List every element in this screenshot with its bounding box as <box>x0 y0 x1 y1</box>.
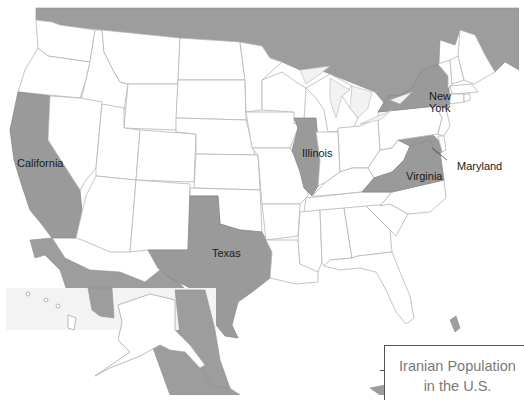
state-arizona[interactable] <box>76 176 136 252</box>
label-maryland: Maryland <box>457 160 502 172</box>
state-south-dakota[interactable] <box>176 80 246 120</box>
state-connecticut[interactable] <box>450 94 464 104</box>
label-virginia: Virginia <box>406 170 443 182</box>
label-new-york-line2: York <box>429 102 451 114</box>
state-north-dakota[interactable] <box>178 38 245 80</box>
state-florida[interactable] <box>324 252 414 324</box>
state-arkansas[interactable] <box>262 204 300 240</box>
label-illinois: Illinois <box>302 147 333 159</box>
map-title-box: Iranian Population in the U.S. <box>384 345 524 400</box>
state-kansas[interactable] <box>194 154 260 190</box>
state-rhode-island[interactable] <box>464 94 470 102</box>
state-new-mexico[interactable] <box>130 180 190 252</box>
state-mississippi[interactable] <box>298 210 322 272</box>
state-iowa[interactable] <box>246 112 298 148</box>
bahamas-region <box>450 316 460 332</box>
label-new-york-line1: New <box>429 90 451 102</box>
label-california: California <box>17 157 63 169</box>
map-title: Iranian Population in the U.S. <box>385 356 524 396</box>
map-title-line2: in the U.S. <box>391 376 524 396</box>
map-title-line1: Iranian Population <box>391 356 524 376</box>
label-texas: Texas <box>212 247 241 259</box>
state-wyoming[interactable] <box>124 84 178 130</box>
state-colorado[interactable] <box>136 130 196 182</box>
state-massachusetts[interactable] <box>450 84 478 94</box>
